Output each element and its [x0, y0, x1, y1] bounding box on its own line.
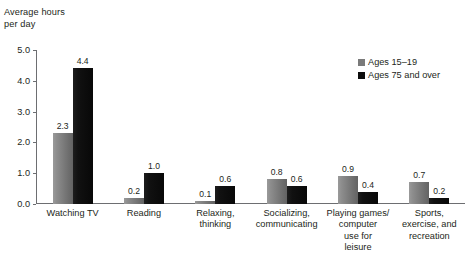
y-axis-tick-label: 5.0: [17, 45, 30, 55]
bar-chart: Average hours per day 0.01.02.03.04.05.0…: [0, 0, 472, 269]
bar-pair: 2.34.4: [53, 50, 93, 204]
bar-value-label: 0.4: [362, 180, 374, 190]
bar-value-label: 0.6: [219, 174, 231, 184]
bar-value-label: 0.9: [342, 164, 354, 174]
bar-value-label: 0.2: [128, 186, 140, 196]
bar-value-label: 1.0: [148, 161, 160, 171]
bar-0: 0.8: [267, 179, 287, 204]
legend-swatch-icon: [358, 72, 365, 79]
chart-legend: Ages 15–19 Ages 75 and over: [358, 56, 440, 82]
bar-group: 0.21.0Reading: [108, 50, 179, 204]
bar-1: 0.6: [287, 186, 307, 204]
bar-1: 0.6: [215, 186, 235, 204]
bar-pair: 0.10.6: [195, 50, 235, 204]
y-axis-tick-label: 1.0: [17, 168, 30, 178]
bar-pair: 0.80.6: [267, 50, 307, 204]
y-axis-tick-label: 2.0: [17, 137, 30, 147]
y-axis-tick-label: 3.0: [17, 107, 30, 117]
bar-value-label: 0.8: [271, 167, 283, 177]
y-axis-tick-mark: [33, 173, 36, 174]
bar-1: 1.0: [144, 173, 164, 204]
bar-0: 0.9: [338, 176, 358, 204]
bar-value-label: 0.2: [433, 186, 445, 196]
legend-item-ages-15-19: Ages 15–19: [358, 56, 440, 68]
bar-value-label: 4.4: [77, 56, 89, 66]
y-axis-tick-mark: [33, 142, 36, 143]
y-axis-tick-mark: [33, 50, 36, 51]
bar-0: 2.3: [53, 133, 73, 204]
y-axis-tick-mark: [33, 112, 36, 113]
bar-group: 2.34.4Watching TV: [37, 50, 108, 204]
legend-swatch-icon: [358, 59, 365, 66]
bar-1: 0.2: [429, 198, 449, 204]
bar-value-label: 2.3: [57, 121, 69, 131]
y-axis-tick-mark: [33, 81, 36, 82]
bar-0: 0.2: [124, 198, 144, 204]
legend-label: Ages 75 and over: [368, 70, 440, 80]
bar-group: 0.80.6Socializing, communicating: [251, 50, 322, 204]
bar-value-label: 0.6: [291, 174, 303, 184]
y-axis-title: Average hours per day: [4, 7, 65, 30]
bar-1: 4.4: [73, 68, 93, 204]
bar-0: 0.7: [409, 182, 429, 204]
bar-pair: 0.21.0: [124, 50, 164, 204]
bar-value-label: 0.7: [413, 170, 425, 180]
y-axis-tick-label: 4.0: [17, 76, 30, 86]
bar-0: 0.1: [195, 201, 215, 204]
bar-value-label: 0.1: [199, 189, 211, 199]
legend-item-ages-75-and-over: Ages 75 and over: [358, 69, 440, 81]
legend-label: Ages 15–19: [368, 57, 417, 67]
bar-group: 0.10.6Relaxing, thinking: [180, 50, 251, 204]
y-axis-tick-mark: [33, 204, 36, 205]
category-label: Sports, exercise, and recreation: [381, 208, 472, 242]
bar-1: 0.4: [358, 192, 378, 204]
